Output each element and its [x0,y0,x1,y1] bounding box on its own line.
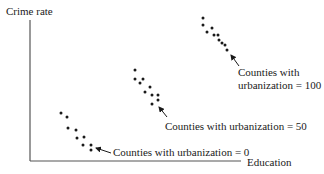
arrow-urbanization-50 [159,107,167,117]
data-point [217,34,220,37]
data-point [157,99,160,102]
data-point [144,91,147,94]
arrow-urbanization-100 [231,55,239,66]
data-point [149,86,152,89]
data-point [221,42,224,45]
data-point [67,127,70,130]
data-point [224,44,227,47]
data-point [139,82,142,85]
y-axis-label: Crime rate [6,5,53,17]
data-point [157,94,160,97]
data-point [202,24,205,27]
x-axis-label: Education [247,156,292,168]
data-point [206,31,209,34]
data-point [75,129,78,132]
points-urbanization-0 [60,112,93,152]
data-point [213,34,216,37]
data-point [151,103,154,106]
data-point [134,78,137,81]
group-label-urbanization-0: Counties with urbanization = 0 [113,146,249,158]
scatter-diagram: Crime rate Education Counties with urban… [0,0,324,174]
data-point [211,27,214,30]
data-point [82,144,85,147]
data-point [60,112,63,115]
data-point [76,137,79,140]
group-label-urbanization-100-line2: urbanization = 100 [238,79,321,91]
data-point [90,144,93,147]
data-point [66,116,69,119]
group-label-urbanization-50: Counties with urbanization = 50 [165,120,307,132]
data-point [226,49,229,52]
points-urbanization-100 [202,17,229,52]
data-point [202,17,205,20]
data-point [151,94,154,97]
data-point [83,136,86,139]
group-label-urbanization-100-line1: Counties with [238,66,299,78]
data-point [218,39,221,42]
data-point [142,78,145,81]
data-point [134,69,137,72]
points-urbanization-50 [134,69,160,106]
arrow-urbanization-0 [96,148,111,153]
data-point [90,149,93,152]
